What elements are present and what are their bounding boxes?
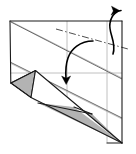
- origami-diagram-svg: [0, 0, 136, 154]
- origami-diagram-figure: [0, 0, 136, 154]
